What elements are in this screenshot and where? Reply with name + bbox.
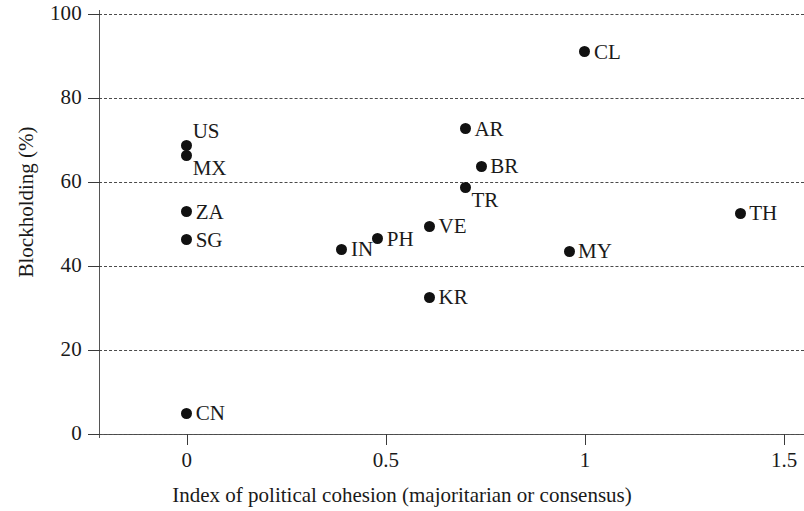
- data-point-label-us: US: [193, 121, 220, 142]
- x-tick-1: [585, 434, 586, 445]
- data-point-tr[interactable]: [460, 182, 471, 193]
- data-point-label-ve: VE: [439, 216, 467, 237]
- x-tick-0: [187, 434, 188, 445]
- x-tick-label-0: 0: [147, 449, 227, 471]
- data-point-cl[interactable]: [579, 46, 590, 57]
- data-point-label-ph: PH: [387, 229, 414, 250]
- y-axis-title: Blockholding (%): [14, 72, 38, 332]
- gridline-y-0: [99, 434, 804, 435]
- data-point-my[interactable]: [564, 246, 575, 257]
- data-point-label-sg: SG: [196, 230, 223, 251]
- y-tick-20: [88, 350, 100, 351]
- y-tick-label-20: 20: [22, 339, 82, 360]
- data-point-label-kr: KR: [439, 287, 468, 308]
- gridline-y-80: [99, 98, 804, 99]
- data-point-label-za: ZA: [196, 202, 224, 223]
- x-tick-label-1: 1: [545, 449, 625, 471]
- data-point-br[interactable]: [476, 161, 487, 172]
- y-tick-0: [88, 434, 100, 435]
- scatter-chart-figure: CNSGZAMXUSINPHKRVETRARBRMYCLTH 020406080…: [0, 0, 804, 511]
- data-point-label-th: TH: [749, 203, 777, 224]
- data-point-kr[interactable]: [424, 292, 435, 303]
- x-tick-label-0.5: 0.5: [346, 449, 426, 471]
- data-point-label-in: IN: [351, 239, 373, 260]
- data-point-ph[interactable]: [372, 233, 383, 244]
- gridline-y-100: [99, 14, 804, 15]
- y-tick-label-0: 0: [22, 423, 82, 444]
- x-axis-title: Index of political cohesion (majoritaria…: [0, 483, 804, 507]
- data-point-label-my: MY: [578, 241, 612, 262]
- data-point-label-cn: CN: [196, 403, 225, 424]
- data-point-ar[interactable]: [460, 123, 471, 134]
- data-point-ve[interactable]: [424, 221, 435, 232]
- plot-area: CNSGZAMXUSINPHKRVETRARBRMYCLTH: [99, 14, 804, 434]
- data-point-za[interactable]: [181, 206, 192, 217]
- data-point-in[interactable]: [336, 244, 347, 255]
- gridline-y-20: [99, 350, 804, 351]
- y-tick-60: [88, 182, 100, 183]
- y-tick-100: [88, 14, 100, 15]
- gridline-y-60: [99, 182, 804, 183]
- data-point-th[interactable]: [735, 208, 746, 219]
- data-point-label-cl: CL: [594, 42, 621, 63]
- data-point-label-ar: AR: [474, 119, 503, 140]
- data-point-cn[interactable]: [181, 408, 192, 419]
- data-point-label-mx: MX: [193, 158, 227, 179]
- data-point-label-tr: TR: [471, 190, 498, 211]
- y-tick-80: [88, 98, 100, 99]
- data-point-mx[interactable]: [181, 150, 192, 161]
- data-point-sg[interactable]: [181, 234, 192, 245]
- y-tick-label-100: 100: [22, 3, 82, 24]
- x-tick-1.5: [784, 434, 785, 445]
- x-tick-0.5: [386, 434, 387, 445]
- y-tick-40: [88, 266, 100, 267]
- data-point-label-br: BR: [490, 156, 518, 177]
- data-point-us[interactable]: [181, 140, 192, 151]
- gridline-y-40: [99, 266, 804, 267]
- x-tick-label-1.5: 1.5: [744, 449, 804, 471]
